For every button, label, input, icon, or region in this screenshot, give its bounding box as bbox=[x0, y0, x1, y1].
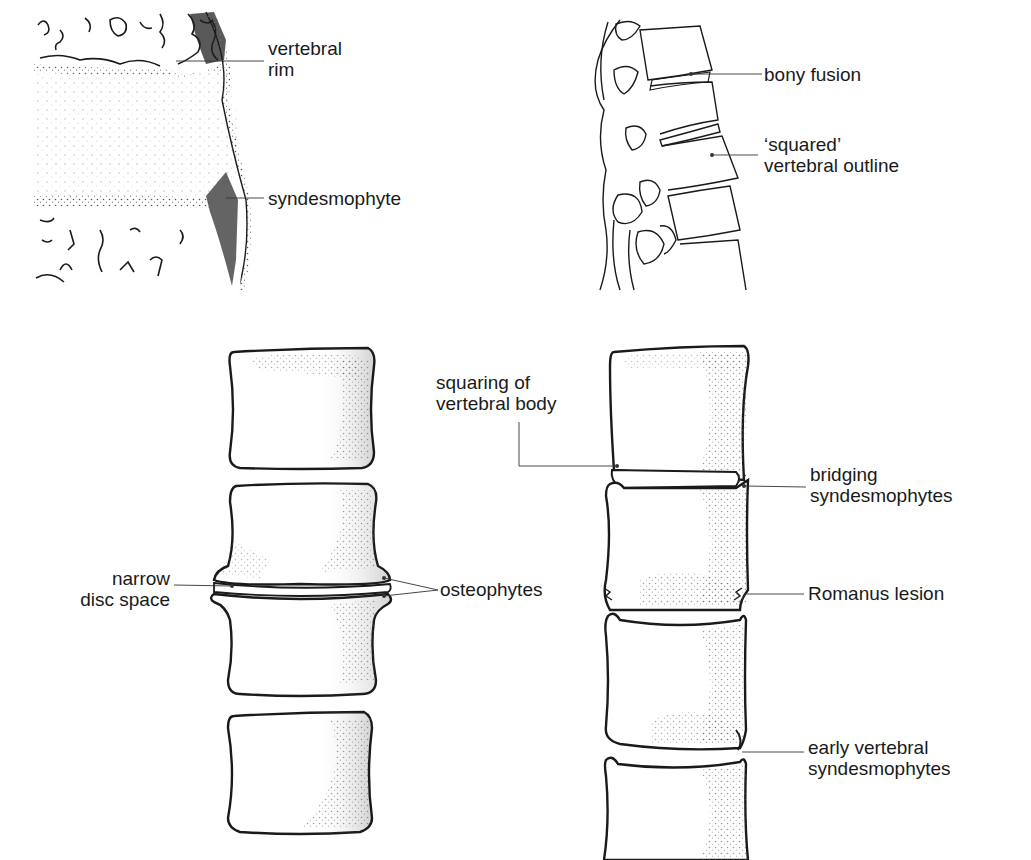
label-line: syndesmophyte bbox=[268, 188, 401, 209]
label-line: squaring of bbox=[436, 372, 556, 393]
leader-bridging bbox=[744, 486, 806, 487]
label-squaring: squaring of vertebral body bbox=[436, 372, 556, 414]
label-line: narrow bbox=[48, 568, 170, 589]
marker-osteophyte-lower bbox=[382, 594, 386, 598]
marker-osteophyte-upper bbox=[382, 576, 386, 580]
spondylosis-column bbox=[211, 348, 391, 834]
label-line: vertebral bbox=[268, 38, 342, 59]
label-line: syndesmophytes bbox=[808, 758, 951, 779]
marker-squaring bbox=[615, 464, 619, 468]
label-early-syndesmophytes: early vertebral syndesmophytes bbox=[808, 737, 951, 779]
marker-squared-outline bbox=[710, 153, 714, 157]
spine-diagram bbox=[0, 0, 1031, 860]
vertebral-margin-detail bbox=[34, 12, 264, 290]
marker-bony-fusion bbox=[689, 72, 693, 76]
label-bony-fusion: bony fusion bbox=[764, 64, 861, 85]
label-line: ‘squared’ bbox=[764, 134, 899, 155]
label-line: Romanus lesion bbox=[808, 583, 944, 604]
label-line: vertebral body bbox=[436, 393, 556, 414]
marker-bridging bbox=[742, 484, 746, 488]
label-line: disc space bbox=[48, 589, 170, 610]
label-line: bridging bbox=[810, 464, 953, 485]
label-narrow-disc-space: narrow disc space bbox=[48, 568, 170, 610]
leader-squaring bbox=[519, 422, 615, 466]
label-vertebral-rim: vertebral rim bbox=[268, 38, 342, 80]
label-romanus-lesion: Romanus lesion bbox=[808, 583, 944, 604]
label-syndesmophyte: syndesmophyte bbox=[268, 188, 401, 209]
label-line: osteophytes bbox=[440, 579, 542, 600]
label-line: rim bbox=[268, 59, 342, 80]
label-line: vertebral outline bbox=[764, 155, 899, 176]
label-line: syndesmophytes bbox=[810, 485, 953, 506]
marker-narrow-disc bbox=[230, 584, 234, 588]
label-squared-outline: ‘squared’ vertebral outline bbox=[764, 134, 899, 176]
leader-osteophyte-lower bbox=[384, 590, 438, 596]
leader-osteophyte-upper bbox=[384, 578, 438, 590]
label-line: bony fusion bbox=[764, 64, 861, 85]
label-bridging: bridging syndesmophytes bbox=[810, 464, 953, 506]
label-line: early vertebral bbox=[808, 737, 951, 758]
label-osteophytes: osteophytes bbox=[440, 579, 542, 600]
ankylosing-spondylitis-column bbox=[604, 346, 749, 860]
